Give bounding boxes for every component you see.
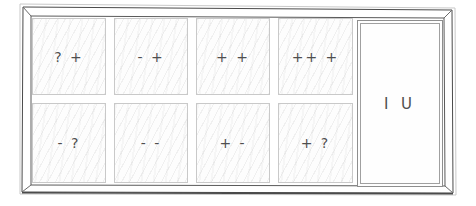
side-box-inner: I U <box>360 23 440 184</box>
grid-cell: - ? <box>32 103 106 183</box>
grid-cell: ? + <box>32 18 106 95</box>
grid-cell: - + <box>114 18 188 95</box>
side-box: I U <box>357 20 443 187</box>
cell-label: + - <box>219 135 246 151</box>
side-box-label: I U <box>384 95 416 113</box>
grid-cell: + - <box>196 103 270 183</box>
grid-cell: + + <box>196 18 270 95</box>
cell-label: ? + <box>54 49 84 65</box>
cell-label: - + <box>137 49 164 65</box>
grid-cell: ++ + <box>278 18 353 95</box>
cell-label: - - <box>141 135 162 151</box>
cell-label: ++ + <box>292 49 340 65</box>
cell-label: + + <box>216 49 250 65</box>
cell-label: + ? <box>301 135 331 151</box>
cell-label: - ? <box>58 135 81 151</box>
grid-cell: + ? <box>278 103 353 183</box>
sketch-canvas: ? + - + + + ++ + - ? - - + - + ? I U <box>0 0 476 206</box>
grid-cell: - - <box>114 103 188 183</box>
